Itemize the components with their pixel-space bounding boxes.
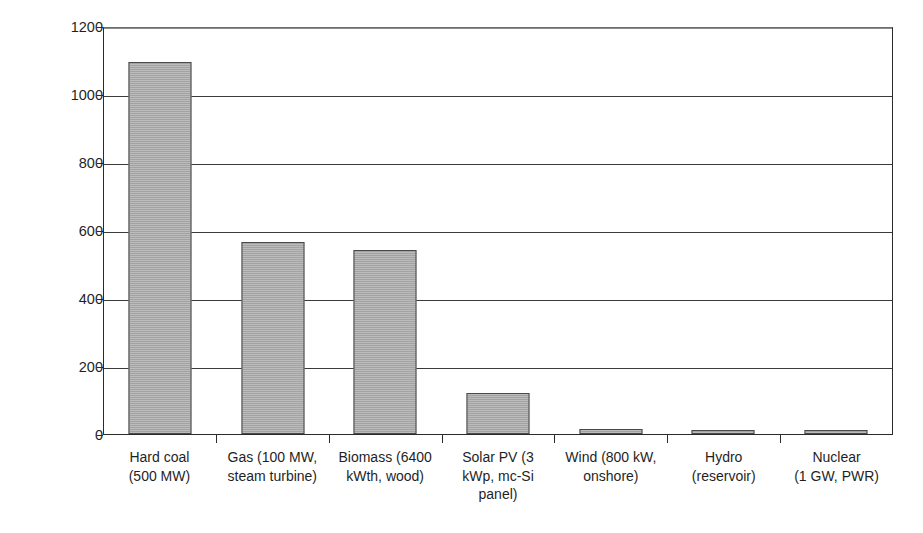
x-axis-label-line: kWp, mc-Si xyxy=(444,467,553,486)
x-axis-label-line: (500 MW) xyxy=(105,467,214,486)
x-tick-slot xyxy=(780,435,893,444)
y-axis-ticks: 020040060080010001200 xyxy=(0,27,103,435)
bar xyxy=(692,430,755,434)
bar xyxy=(129,62,192,434)
x-axis-label-line: Wind (800 kW, xyxy=(556,448,665,467)
x-axis-label-line: (1 GW, PWR) xyxy=(782,467,891,486)
bar-slot xyxy=(667,28,780,434)
bar xyxy=(241,242,304,434)
x-axis-label: Hard coal(500 MW) xyxy=(103,448,216,504)
bar xyxy=(354,250,417,434)
bar-slot xyxy=(104,28,217,434)
y-tick-label-400: 400 xyxy=(25,291,103,307)
x-axis-label: Biomass (6400kWth, wood) xyxy=(329,448,442,504)
bar-slot xyxy=(442,28,555,434)
x-tick-slot xyxy=(103,435,216,444)
plot-area xyxy=(103,27,893,435)
y-tick-label-600: 600 xyxy=(25,223,103,239)
x-tick-slot xyxy=(442,435,555,444)
x-axis-label: Nuclear(1 GW, PWR) xyxy=(780,448,893,504)
x-tick-slot xyxy=(329,435,442,444)
x-axis-label-line: Hydro xyxy=(669,448,778,467)
x-tick-slot xyxy=(667,435,780,444)
x-tick-mark xyxy=(667,435,668,443)
x-tick-mark xyxy=(780,435,781,443)
bar xyxy=(804,430,867,434)
x-axis-label-line: Biomass (6400 xyxy=(331,448,440,467)
y-tick-label-800: 800 xyxy=(25,155,103,171)
bar xyxy=(579,429,642,434)
x-tick-mark xyxy=(329,435,330,443)
x-axis-labels: Hard coal(500 MW)Gas (100 MW,steam turbi… xyxy=(103,448,893,504)
x-axis-label-line: kWth, wood) xyxy=(331,467,440,486)
bar-chart: Global Warming Potential (g CO2 eq./kWh)… xyxy=(0,0,923,533)
x-axis-label-line: Nuclear xyxy=(782,448,891,467)
y-tick-label-200: 200 xyxy=(25,359,103,375)
x-tick-slot xyxy=(554,435,667,444)
x-tick-mark xyxy=(442,435,443,443)
y-tick-label-1200: 1200 xyxy=(25,19,103,35)
x-axis-label: Hydro(reservoir) xyxy=(667,448,780,504)
x-axis-label: Gas (100 MW,steam turbine) xyxy=(216,448,329,504)
x-tick-mark xyxy=(554,435,555,443)
x-axis-label-line: (reservoir) xyxy=(669,467,778,486)
x-axis-label-line: Solar PV (3 xyxy=(444,448,553,467)
bar-slot xyxy=(329,28,442,434)
x-axis-label-line: Hard coal xyxy=(105,448,214,467)
x-axis-label: Wind (800 kW,onshore) xyxy=(554,448,667,504)
y-tick-label-0: 0 xyxy=(25,427,103,443)
x-axis-label-line: panel) xyxy=(444,485,553,504)
bar xyxy=(467,393,530,434)
bar-slot xyxy=(779,28,892,434)
x-tick-slot xyxy=(216,435,329,444)
y-tick-label-1000: 1000 xyxy=(25,87,103,103)
x-axis-label: Solar PV (3kWp, mc-Sipanel) xyxy=(442,448,555,504)
x-axis-label-line: steam turbine) xyxy=(218,467,327,486)
x-axis-label-line: Gas (100 MW, xyxy=(218,448,327,467)
bar-slot xyxy=(554,28,667,434)
bars-container xyxy=(104,28,892,434)
x-tick-mark xyxy=(216,435,217,443)
x-axis-ticks xyxy=(103,435,893,444)
x-axis-label-line: onshore) xyxy=(556,467,665,486)
bar-slot xyxy=(217,28,330,434)
